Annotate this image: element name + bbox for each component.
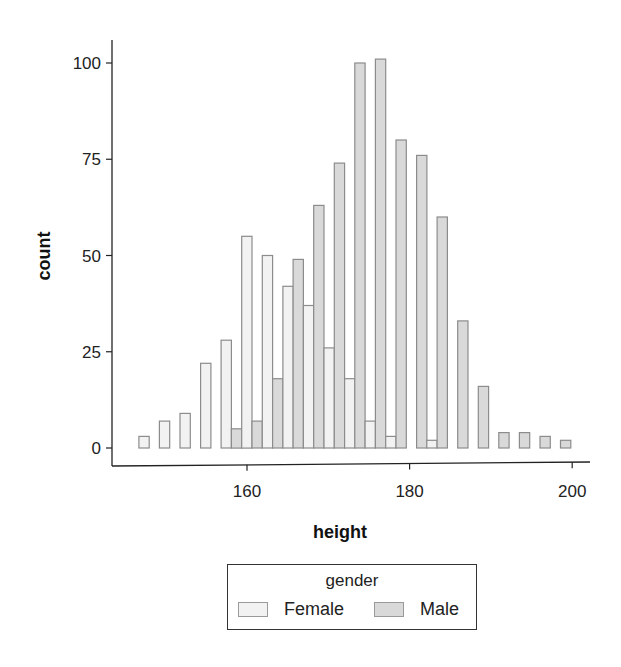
bar-female: [139, 436, 149, 448]
bar-female: [201, 363, 211, 448]
bar-male: [417, 155, 427, 448]
bar-male: [561, 440, 571, 448]
legend-label-female: Female: [284, 599, 344, 620]
bar-male: [355, 63, 365, 448]
bar-female: [365, 421, 375, 448]
bar-female: [345, 379, 355, 448]
bar-female: [386, 436, 396, 448]
y-tick-label: 0: [92, 439, 101, 458]
bar-male: [375, 59, 385, 448]
bar-male: [293, 259, 303, 448]
bar-male: [519, 433, 529, 448]
bars-layer: [139, 59, 571, 448]
bar-female: [427, 440, 437, 448]
x-tick-label: 200: [558, 482, 586, 501]
bar-female: [262, 256, 272, 449]
female-swatch: [238, 602, 268, 617]
bar-male: [334, 163, 344, 448]
bar-female: [180, 413, 190, 448]
histogram-chart: 0255075100 160180200 height count: [0, 0, 621, 560]
y-axis-title: count: [34, 232, 54, 281]
bar-male: [499, 433, 509, 448]
bar-female: [324, 348, 334, 448]
y-axis-ticks: 0255075100: [73, 54, 112, 458]
bar-male: [458, 321, 468, 448]
bar-female: [221, 340, 231, 448]
bar-male: [314, 205, 324, 448]
bar-female: [283, 286, 293, 448]
legend-label-male: Male: [420, 599, 459, 620]
x-axis-line: [112, 462, 590, 466]
bar-female: [303, 306, 313, 449]
y-tick-label: 25: [82, 343, 101, 362]
y-tick-label: 100: [73, 54, 101, 73]
y-tick-label: 75: [82, 150, 101, 169]
bar-female: [159, 421, 169, 448]
bar-male: [478, 386, 488, 448]
y-tick-label: 50: [82, 247, 101, 266]
x-tick-label: 160: [233, 482, 261, 501]
legend-items: Female Male: [238, 599, 489, 620]
bar-male: [437, 217, 447, 448]
legend: gender Female Male: [227, 564, 477, 630]
x-axis-title: height: [313, 522, 367, 542]
bar-male: [396, 140, 406, 448]
legend-title: gender: [228, 571, 476, 591]
bar-male: [252, 421, 262, 448]
male-swatch: [374, 602, 404, 617]
bar-male: [540, 436, 550, 448]
bar-male: [231, 429, 241, 448]
bar-female: [242, 236, 252, 448]
x-axis-ticks: 160180200: [233, 462, 587, 501]
legend-item-female: Female: [238, 599, 344, 620]
bar-male: [273, 379, 283, 448]
x-tick-label: 180: [395, 482, 423, 501]
legend-item-male: Male: [374, 599, 459, 620]
